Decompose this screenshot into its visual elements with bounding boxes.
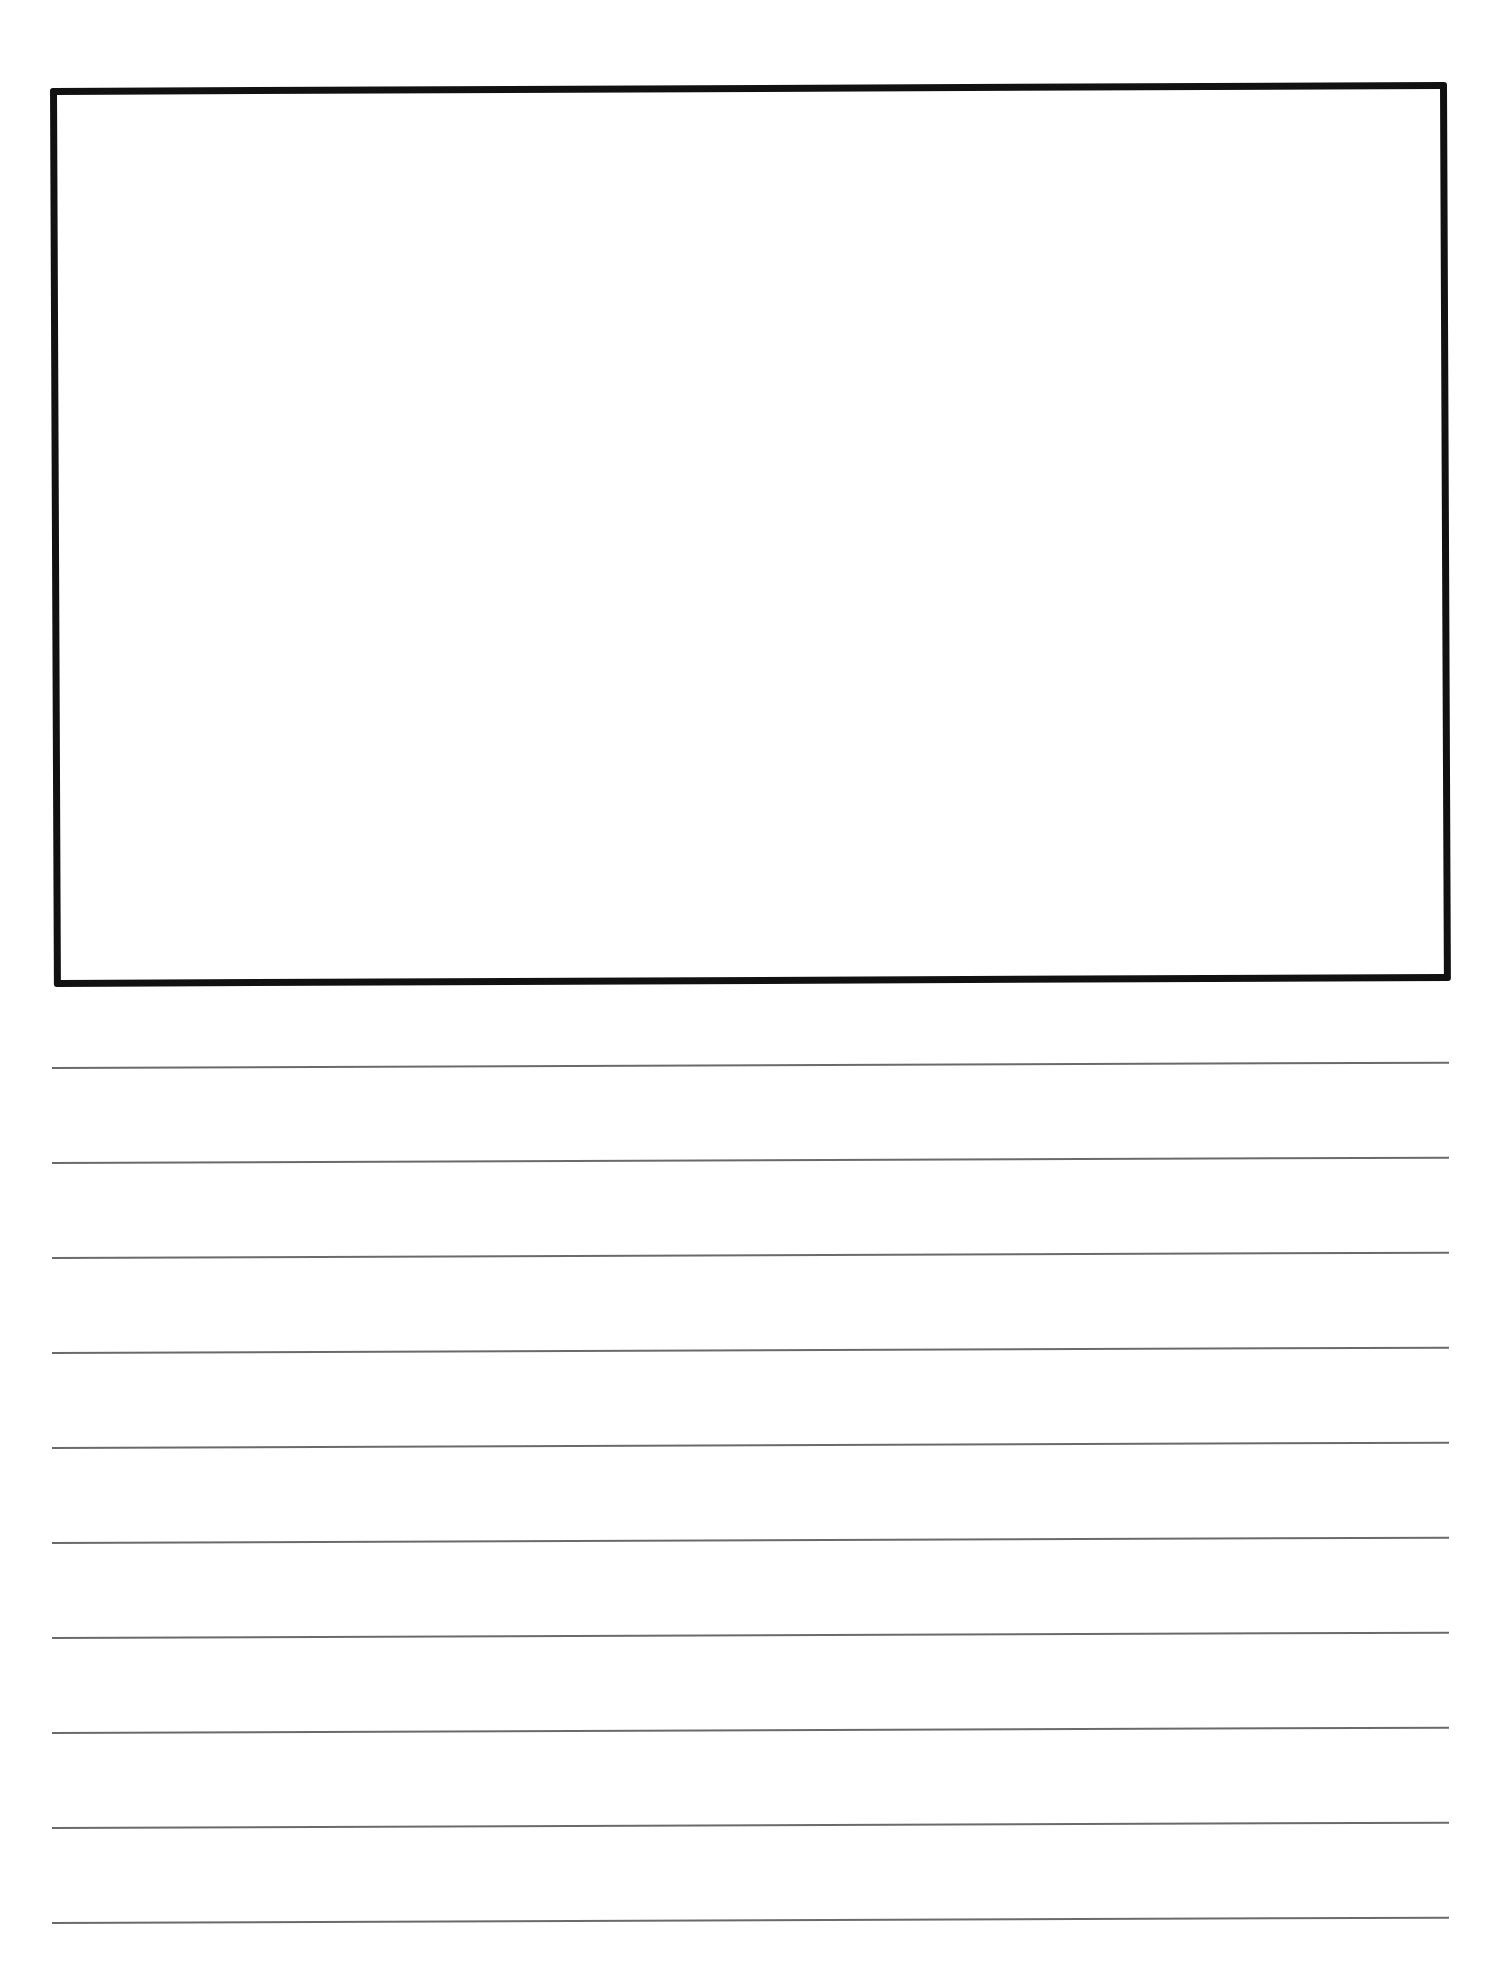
writing-line — [52, 1062, 1449, 1069]
writing-line — [52, 1822, 1449, 1829]
writing-line — [52, 1252, 1449, 1259]
writing-line — [52, 1157, 1449, 1164]
writing-line — [52, 1632, 1449, 1639]
writing-line — [52, 1917, 1449, 1924]
writing-line — [52, 1442, 1449, 1449]
writing-line — [52, 1347, 1449, 1354]
writing-line — [52, 1727, 1449, 1734]
writing-line — [52, 1537, 1449, 1544]
drawing-box — [50, 82, 1451, 987]
